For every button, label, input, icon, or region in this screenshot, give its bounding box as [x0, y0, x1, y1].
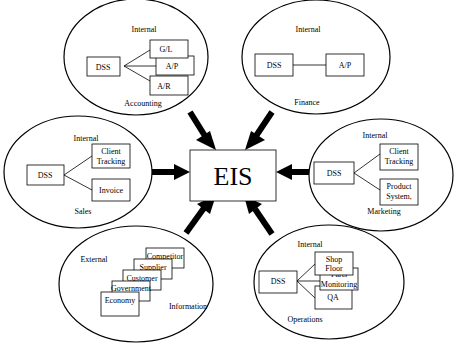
svg-text:Invoice: Invoice: [99, 186, 123, 195]
svg-text:Accounting: Accounting: [124, 99, 161, 108]
svg-text:A/R: A/R: [157, 82, 171, 91]
sales-module: Internal DSS Client Tracking Invoice Sal…: [4, 116, 152, 228]
svg-text:Economy: Economy: [105, 296, 136, 305]
svg-text:DSS: DSS: [267, 61, 282, 70]
svg-text:Client: Client: [389, 147, 409, 156]
svg-text:Internal: Internal: [132, 25, 158, 34]
svg-text:Tracking: Tracking: [385, 157, 414, 166]
svg-text:Monitoring: Monitoring: [321, 280, 357, 289]
svg-text:Product: Product: [387, 182, 413, 191]
svg-text:Client: Client: [101, 147, 121, 156]
svg-text:DSS: DSS: [271, 277, 286, 286]
marketing-module: Internal DSS Client Tracking Product Sys…: [309, 119, 453, 231]
svg-text:Operations: Operations: [287, 315, 322, 324]
svg-text:G/L: G/L: [160, 45, 173, 54]
eis-box: EIS: [190, 150, 276, 201]
svg-text:Internal: Internal: [298, 240, 324, 249]
svg-text:DSS: DSS: [96, 63, 111, 72]
eis-diagram: EIS Internal DSS A/R A/P G/L Accounting …: [0, 0, 463, 347]
svg-text:Finance: Finance: [294, 98, 320, 107]
svg-text:DSS: DSS: [38, 171, 53, 180]
svg-text:Shop: Shop: [326, 255, 342, 264]
operations-module: Internal DSS QA Parts Monitoring Shop Fl…: [254, 225, 404, 339]
svg-text:Tracking: Tracking: [97, 157, 126, 166]
svg-text:A/P: A/P: [166, 62, 179, 71]
svg-text:A/P: A/P: [339, 61, 352, 70]
svg-text:QA: QA: [327, 293, 339, 302]
svg-text:Information: Information: [169, 302, 207, 311]
svg-text:Marketing: Marketing: [367, 207, 400, 216]
svg-text:Sales: Sales: [75, 207, 92, 216]
svg-text:Internal: Internal: [74, 134, 100, 143]
information-module: External Competitor Supplier Customer Go…: [59, 226, 213, 342]
svg-text:External: External: [80, 255, 108, 264]
accounting-module: Internal DSS A/R A/P G/L Accounting: [64, 0, 208, 115]
svg-text:Floor: Floor: [325, 264, 343, 273]
svg-text:EIS: EIS: [214, 162, 253, 191]
svg-text:Internal: Internal: [363, 131, 389, 140]
svg-text:System,: System,: [386, 192, 412, 201]
svg-text:DSS: DSS: [327, 169, 342, 178]
finance-module: Internal DSS A/P Finance: [242, 0, 390, 114]
svg-text:Internal: Internal: [296, 25, 322, 34]
